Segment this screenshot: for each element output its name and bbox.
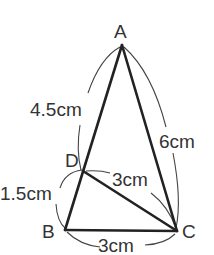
edge-bc: [65, 230, 177, 231]
arc-ac-upper: [124, 47, 166, 127]
vertex-label-a: A: [114, 21, 127, 42]
length-label-db: 1.5cm: [0, 183, 52, 204]
triangle-diagram: A B C D 4.5cm 1.5cm 6cm 3cm 3cm: [0, 0, 214, 255]
vertex-label-d: D: [65, 150, 79, 171]
arc-bc-right: [145, 234, 175, 245]
arc-bc-left: [67, 232, 100, 247]
length-label-bc: 3cm: [98, 235, 134, 255]
vertex-label-c: C: [182, 221, 196, 242]
vertex-label-b: B: [42, 221, 55, 242]
length-label-dc: 3cm: [112, 169, 148, 190]
arc-db-lower: [56, 204, 66, 229]
length-label-ad: 4.5cm: [30, 99, 82, 120]
arc-dc-left: [86, 171, 110, 173]
length-label-ac: 6cm: [159, 131, 195, 152]
edge-ab: [65, 45, 122, 230]
